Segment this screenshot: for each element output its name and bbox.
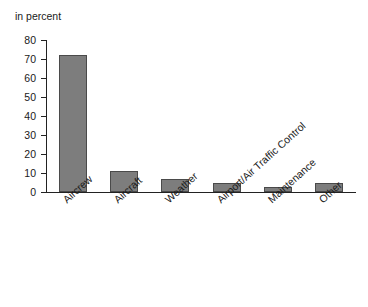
bar xyxy=(59,55,87,192)
y-axis-tick-label: 60 xyxy=(10,73,36,84)
y-axis-tick xyxy=(41,59,46,60)
y-axis-tick-label: 10 xyxy=(10,168,36,179)
y-axis-tick xyxy=(41,97,46,98)
y-axis-tick-label: 20 xyxy=(10,149,36,160)
y-axis-tick xyxy=(41,40,46,41)
y-axis-tick-label: 40 xyxy=(10,111,36,122)
x-axis-line xyxy=(46,192,356,193)
y-axis-tick-label: 0 xyxy=(10,187,36,198)
y-axis-tick xyxy=(41,78,46,79)
y-axis-title: in percent xyxy=(15,10,61,22)
y-axis-tick xyxy=(41,173,46,174)
y-axis-tick-label: 70 xyxy=(10,54,36,65)
y-axis-tick-label: 30 xyxy=(10,130,36,141)
y-axis-tick xyxy=(41,192,46,193)
y-axis-tick-label: 50 xyxy=(10,92,36,103)
bar-chart: in percent 01020304050607080 AircrewAirc… xyxy=(0,0,368,307)
y-axis-tick xyxy=(41,116,46,117)
y-axis-tick-label: 80 xyxy=(10,35,36,46)
y-axis-tick xyxy=(41,135,46,136)
y-axis-tick xyxy=(41,154,46,155)
